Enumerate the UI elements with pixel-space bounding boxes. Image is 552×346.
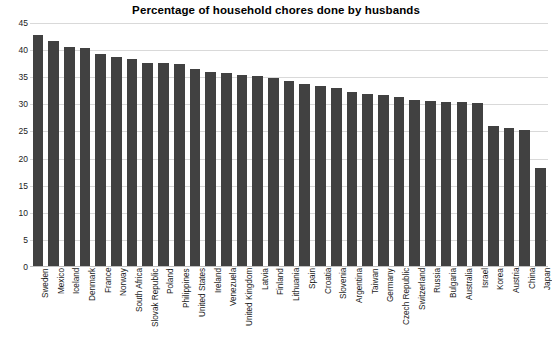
x-label-slot: Taiwan: [360, 268, 376, 346]
x-label-slot: Argentina: [344, 268, 360, 346]
bar: [299, 84, 310, 267]
x-label-slot: Lithuania: [281, 268, 297, 346]
x-label-slot: Iceland: [61, 268, 77, 346]
y-axis-tick-label: 5: [4, 236, 28, 245]
x-label-slot: Spain: [297, 268, 313, 346]
bar: [362, 94, 373, 267]
bar-slot: [375, 23, 391, 267]
bar: [441, 102, 452, 267]
y-axis-tick-label: 20: [4, 154, 28, 163]
bar-slot: [470, 23, 486, 267]
x-label-slot: South Africa: [124, 268, 140, 346]
bar: [80, 48, 91, 267]
bar-slot: [46, 23, 62, 267]
bar: [519, 130, 530, 267]
bar-slot: [61, 23, 77, 267]
x-label-slot: Slovak Republic: [140, 268, 156, 346]
bar: [331, 88, 342, 267]
y-axis-tick-label: 15: [4, 181, 28, 190]
y-axis-tick-label: 30: [4, 100, 28, 109]
y-axis-tick-label: 40: [4, 46, 28, 55]
bar-slot: [93, 23, 109, 267]
bar: [457, 102, 468, 267]
bar: [237, 75, 248, 267]
bar: [268, 78, 279, 267]
bar: [205, 72, 216, 267]
bar: [378, 95, 389, 267]
bar: [95, 54, 106, 267]
bar-slot: [485, 23, 501, 267]
x-label-slot: Switzerland: [407, 268, 423, 346]
x-label-slot: Bulgaria: [438, 268, 454, 346]
x-label-slot: Korea: [485, 268, 501, 346]
x-label-slot: Latvia: [250, 268, 266, 346]
bar-slot: [360, 23, 376, 267]
x-label-slot: United States: [187, 268, 203, 346]
bar: [409, 100, 420, 267]
x-label-slot: Norway: [109, 268, 125, 346]
bar-slot: [328, 23, 344, 267]
x-label-slot: Australia: [454, 268, 470, 346]
x-label-slot: Denmark: [77, 268, 93, 346]
bar-slot: [533, 23, 549, 267]
x-label-slot: France: [93, 268, 109, 346]
bar-slot: [266, 23, 282, 267]
bar-slot: [156, 23, 172, 267]
bar: [488, 126, 499, 267]
bar: [64, 47, 75, 267]
bar: [221, 73, 232, 267]
bar: [284, 81, 295, 267]
bar: [174, 64, 185, 267]
x-label-slot: Czech Republic: [391, 268, 407, 346]
bar-slot: [423, 23, 439, 267]
bar: [472, 103, 483, 267]
bar: [190, 69, 201, 267]
x-label-slot: Ireland: [203, 268, 219, 346]
chart-title: Percentage of household chores done by h…: [0, 4, 552, 16]
bar-slot: [234, 23, 250, 267]
bar-slot: [124, 23, 140, 267]
y-axis-tick-label: 45: [4, 19, 28, 28]
bar-slot: [297, 23, 313, 267]
x-label-slot: China: [517, 268, 533, 346]
bar-slot: [407, 23, 423, 267]
x-label-slot: Germany: [375, 268, 391, 346]
bar: [504, 128, 515, 267]
bar-slot: [218, 23, 234, 267]
bar-slot: [391, 23, 407, 267]
bar-series: [30, 23, 548, 267]
bar: [127, 59, 138, 267]
bar: [315, 86, 326, 267]
x-label-slot: United Kingdom: [234, 268, 250, 346]
x-label-slot: Sweden: [30, 268, 46, 346]
bar-slot: [140, 23, 156, 267]
bar: [142, 63, 153, 267]
bar: [111, 57, 122, 267]
bar-slot: [109, 23, 125, 267]
bar: [394, 97, 405, 267]
x-label-slot: Croatia: [313, 268, 329, 346]
x-label-slot: Mexico: [46, 268, 62, 346]
bar-slot: [454, 23, 470, 267]
bar-slot: [30, 23, 46, 267]
y-axis-tick-label: 35: [4, 73, 28, 82]
bar-slot: [344, 23, 360, 267]
bar: [33, 35, 44, 267]
bar-slot: [501, 23, 517, 267]
x-label-slot: Finland: [266, 268, 282, 346]
x-label-slot: Philippines: [171, 268, 187, 346]
x-label-slot: Poland: [156, 268, 172, 346]
bar: [252, 76, 263, 267]
x-label-slot: Israel: [470, 268, 486, 346]
y-axis-tick-label: 25: [4, 127, 28, 136]
x-axis-tick-label: Japan: [544, 268, 552, 290]
bar-slot: [438, 23, 454, 267]
bar-slot: [250, 23, 266, 267]
bar-slot: [171, 23, 187, 267]
x-label-slot: Slovenia: [328, 268, 344, 346]
x-label-slot: Austria: [501, 268, 517, 346]
bar: [48, 41, 59, 267]
y-axis: 051015202530354045: [0, 0, 28, 346]
y-axis-tick-label: 10: [4, 209, 28, 218]
x-label-slot: Venezuela: [218, 268, 234, 346]
